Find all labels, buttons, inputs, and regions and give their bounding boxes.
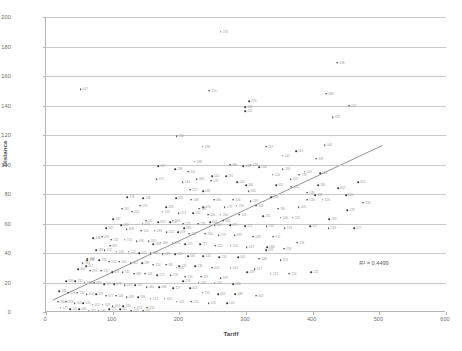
data-point-label: 045 [240,255,245,259]
data-point-label: 088 [238,292,243,296]
data-point [79,308,81,310]
data-point [157,165,159,167]
data-point-label: 190 [280,207,285,211]
data-point [141,263,143,265]
data-point [75,280,77,282]
data-point-label: 019 [249,245,254,249]
data-point-label: 059 [104,235,109,239]
data-point-label: 048 [262,257,267,261]
data-point-label: 184 [149,285,154,289]
data-point [198,282,200,284]
data-point [297,242,299,244]
data-point-label: 231 [300,241,305,245]
data-point-label: 156 [236,198,241,202]
data-point [247,271,249,273]
data-point [255,295,257,297]
data-point-label: 065 [251,189,256,193]
data-point-label: 008 [236,282,241,286]
data-point-label: 193 [92,269,97,273]
scatter-chart: R² = 0.4499 2360470361100380751630020570… [0,0,462,351]
data-point-label: 138 [194,198,199,202]
data-point-label: 229 [350,208,355,212]
data-point-label: 219 [253,199,258,203]
data-point-label: 123 [153,297,158,301]
data-point-label: 060 [82,307,87,311]
data-point-label: 233 [331,226,336,230]
y-tick-mark [43,17,46,18]
data-point-label: 026 [201,281,206,285]
data-point [209,90,211,92]
data-point [275,184,277,186]
data-point [126,229,128,231]
data-point-label: 183 [68,279,73,283]
data-point-label: 142 [206,254,211,258]
data-point [131,310,133,312]
data-point [250,201,252,203]
data-point [139,252,141,254]
data-point-label: 174 [127,238,132,242]
data-point [201,276,203,278]
gridline [46,47,446,48]
gridline [46,253,446,254]
data-point [169,221,171,223]
data-point-label: 066 [162,285,167,289]
data-point [277,208,279,210]
data-point [272,174,274,176]
data-point-label: 181 [62,289,67,293]
data-point [265,146,267,148]
data-point [223,220,225,222]
y-tick-mark [43,194,46,195]
data-point [337,187,339,189]
data-point [324,145,326,147]
data-point [199,208,201,210]
data-point [176,267,178,269]
data-point [142,223,144,225]
data-point-label: 051 [298,149,303,153]
data-point-label: 209 [332,217,337,221]
data-point [87,258,89,260]
data-point-label: 046 [283,216,288,220]
data-point [248,190,250,192]
data-point-label: 087 [202,207,207,211]
data-point-label: 075 [252,99,257,103]
data-point [57,301,59,303]
data-point [146,286,148,288]
data-point [95,294,97,296]
data-point [304,171,306,173]
data-point [115,295,117,297]
data-point [80,88,82,90]
data-point-label: 212 [248,224,253,228]
y-tick-label: 140 [1,103,11,109]
data-point-label: 167 [116,217,121,221]
data-point [220,277,222,279]
data-point-label: 093 [157,229,162,233]
data-point-label: 120 [86,301,91,305]
data-point-label: 016 [179,300,184,304]
data-point-label: 124 [178,252,183,256]
data-point-label: 089 [136,272,141,276]
data-point-label: 176 [130,195,135,199]
data-point [255,205,257,207]
data-point [315,195,317,197]
data-point-label: 053 [124,223,129,227]
data-point [185,243,187,245]
data-point-label: 021 [204,275,209,279]
data-point-label: 165 [124,207,129,211]
data-point-label: 163 [248,105,253,109]
data-point [175,168,177,170]
data-point [119,308,121,310]
data-point [227,302,229,304]
data-point [65,301,67,303]
data-point [197,223,199,225]
data-point-label: 143 [127,283,132,287]
data-point-label: 037 [268,145,273,149]
data-point [245,111,247,113]
x-tick-mark [446,312,447,315]
data-point [203,255,205,257]
data-point [289,273,291,275]
data-point [307,192,309,194]
x-tick-label: 300 [240,316,249,322]
data-point-label: 186 [248,183,253,187]
data-point-label: 049 [256,235,261,239]
data-point [292,217,294,219]
